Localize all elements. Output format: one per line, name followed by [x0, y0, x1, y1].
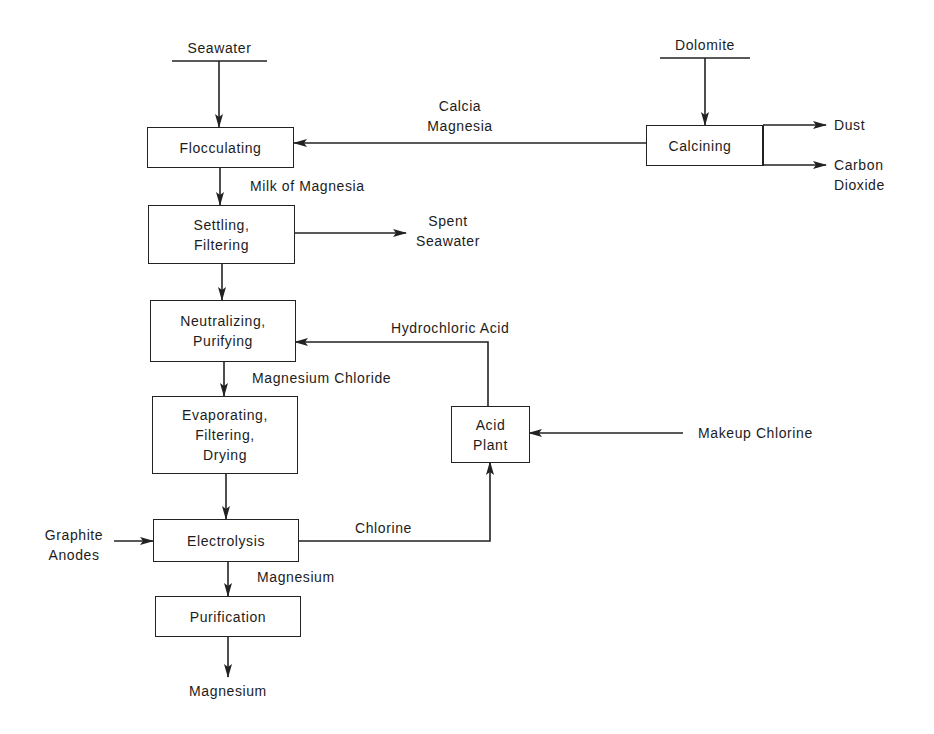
seawater-text: Seawater: [172, 38, 267, 58]
neutralizing-line-1: Neutralizing,: [180, 311, 266, 331]
milk-of-magnesia-label: Milk of Magnesia: [250, 176, 365, 196]
acid-plant-line-1: Acid: [473, 415, 508, 435]
settling-line-1: Settling,: [194, 215, 250, 235]
graphite-anodes-line-2: Anodes: [36, 545, 112, 565]
chlorine-text: Chlorine: [355, 518, 412, 538]
hydrochloric-acid-label: Hydrochloric Acid: [391, 318, 509, 338]
process-calcining: Calcining: [646, 125, 764, 166]
chlorine-label: Chlorine: [355, 518, 412, 538]
process-flocculating: Flocculating: [147, 127, 294, 168]
process-neutralizing-purifying: Neutralizing, Purifying: [150, 300, 296, 362]
milk-of-magnesia-text: Milk of Magnesia: [250, 176, 365, 196]
electrolysis-text: Electrolysis: [187, 531, 265, 551]
magnesia-text: Magnesia: [410, 116, 510, 136]
calcia-magnesia-label: Calcia Magnesia: [410, 96, 510, 136]
graphite-anodes-label: Graphite Anodes: [36, 525, 112, 565]
process-acid-plant: Acid Plant: [451, 406, 530, 463]
spent-seawater-label: Spent Seawater: [410, 211, 486, 251]
settling-line-2: Filtering: [194, 235, 250, 255]
evaporating-line-3: Drying: [182, 445, 268, 465]
dolomite-input-label: Dolomite: [660, 35, 750, 55]
graphite-anodes-line-1: Graphite: [36, 525, 112, 545]
evaporating-line-2: Filtering,: [182, 425, 268, 445]
process-settling-filtering: Settling, Filtering: [148, 205, 295, 264]
calcia-text: Calcia: [410, 96, 510, 116]
flocculating-text: Flocculating: [180, 138, 262, 158]
process-electrolysis: Electrolysis: [153, 519, 299, 562]
dust-text: Dust: [834, 115, 865, 135]
process-evaporating-filtering-drying: Evaporating, Filtering, Drying: [152, 396, 298, 474]
magnesium-intermediate-label: Magnesium: [257, 567, 335, 587]
process-purification: Purification: [155, 596, 301, 637]
makeup-chlorine-text: Makeup Chlorine: [698, 423, 813, 443]
carbon-dioxide-label: Carbon Dioxide: [834, 155, 885, 195]
calcining-text: Calcining: [653, 136, 747, 156]
seawater-input-label: Seawater: [172, 38, 267, 58]
magnesium-output-label: Magnesium: [178, 681, 278, 701]
acid-plant-line-2: Plant: [473, 435, 508, 455]
dolomite-text: Dolomite: [660, 35, 750, 55]
spent-text: Spent: [410, 211, 486, 231]
carbon-text: Carbon: [834, 155, 885, 175]
seawater-output-text: Seawater: [410, 231, 486, 251]
evaporating-line-1: Evaporating,: [182, 405, 268, 425]
magnesium-intermediate-text: Magnesium: [257, 567, 335, 587]
dioxide-text: Dioxide: [834, 175, 885, 195]
magnesium-chloride-label: Magnesium Chloride: [252, 368, 391, 388]
magnesium-chloride-text: Magnesium Chloride: [252, 368, 391, 388]
dust-label: Dust: [834, 115, 865, 135]
calcining-divider: [762, 125, 763, 165]
neutralizing-line-2: Purifying: [180, 331, 266, 351]
makeup-chlorine-label: Makeup Chlorine: [698, 423, 813, 443]
hydrochloric-acid-text: Hydrochloric Acid: [391, 318, 509, 338]
magnesium-output-text: Magnesium: [178, 681, 278, 701]
purification-text: Purification: [190, 607, 266, 627]
